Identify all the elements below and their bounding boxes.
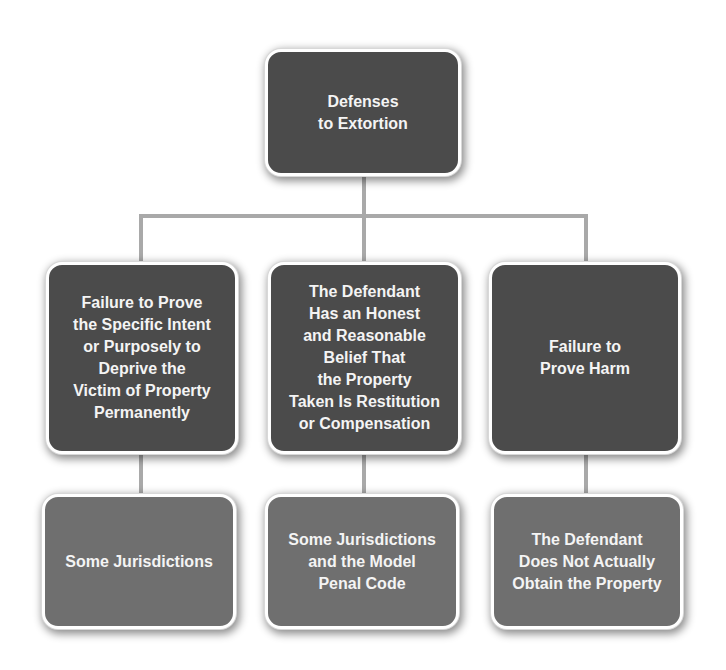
root-node-defenses-to-extortion: Defenses to Extortion (265, 49, 461, 176)
connector-branch-2-stem (362, 214, 366, 264)
connector-root-stem (362, 175, 366, 218)
leaf-node-some-jurisdictions: Some Jurisdictions (42, 494, 236, 629)
diagram-canvas: Defenses to Extortion Failure to Prove t… (0, 0, 726, 670)
connector-branch-3-child (584, 452, 588, 496)
leaf-node-some-jurisdictions-model-penal-code: Some Jurisdictions and the Model Penal C… (265, 494, 459, 629)
connector-branch-2-child (362, 452, 366, 496)
connector-branch-1-stem (139, 214, 143, 264)
leaf-node-defendant-does-not-obtain-property: The Defendant Does Not Actually Obtain t… (491, 494, 683, 629)
branch-node-failure-to-prove-intent: Failure to Prove the Specific Intent or … (46, 262, 238, 454)
connector-branch-1-child (139, 452, 143, 496)
branch-node-failure-to-prove-harm: Failure to Prove Harm (489, 262, 681, 454)
connector-branch-3-stem (584, 214, 588, 264)
branch-node-honest-belief-restitution: The Defendant Has an Honest and Reasonab… (268, 262, 461, 454)
